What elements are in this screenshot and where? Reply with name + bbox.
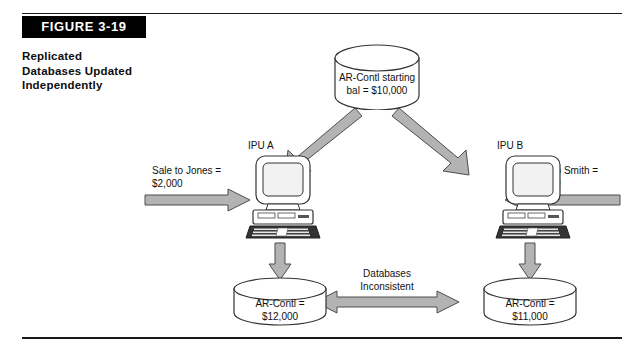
database-ipu-b: AR-Contl = $11,000 (482, 277, 578, 327)
database-ipu-b-line-2: $11,000 (482, 311, 578, 324)
node-label-ipu-a: IPU A (248, 140, 274, 153)
arrow-ipu-b-to-db (519, 243, 541, 280)
arrow-databases-inconsistent (315, 291, 459, 313)
input-label-sale-jones-line-2: $2,000 (152, 178, 221, 191)
database-top-text: AR-Contl starting bal = $10,000 (333, 72, 421, 97)
computer-ipu-b (492, 155, 574, 245)
arrow-sale-jones (145, 189, 250, 211)
computer-ipu-a (242, 155, 324, 245)
database-ipu-a-line-2: $12,000 (232, 311, 328, 324)
database-ipu-a-line-1: AR-Contl = (232, 298, 328, 311)
note-databases-inconsistent: Databases Inconsistent (342, 268, 432, 293)
arrow-top-to-ipu-b (392, 108, 469, 175)
database-top-line-1: AR-Contl starting (333, 72, 421, 85)
database-ipu-b-text: AR-Contl = $11,000 (482, 298, 578, 323)
database-ipu-b-line-1: AR-Contl = (482, 298, 578, 311)
database-ipu-a-text: AR-Contl = $12,000 (232, 298, 328, 323)
input-label-sale-jones: Sale to Jones = $2,000 (152, 165, 221, 190)
node-label-ipu-b: IPU B (497, 140, 523, 153)
database-top: AR-Contl starting bal = $10,000 (333, 44, 421, 110)
figure-page: FIGURE 3-19 Replicated Databases Updated… (0, 0, 642, 356)
input-label-sale-jones-line-1: Sale to Jones = (152, 165, 221, 178)
arrow-ipu-a-to-db (269, 243, 291, 280)
note-line-1: Databases (342, 268, 432, 281)
database-ipu-a: AR-Contl = $12,000 (232, 277, 328, 327)
database-top-line-2: bal = $10,000 (333, 85, 421, 98)
note-line-2: Inconsistent (342, 281, 432, 294)
